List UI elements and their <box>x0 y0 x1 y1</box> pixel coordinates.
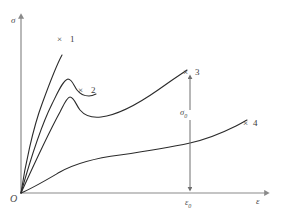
marker-1-label: 1 <box>70 34 75 44</box>
epsilon-zero-subscript: 0 <box>188 203 191 209</box>
marker-2: × 2 <box>78 80 96 96</box>
marker-3-label: 3 <box>195 67 200 77</box>
sigma-zero-subscript: 0 <box>184 113 187 119</box>
curve-4 <box>21 120 247 193</box>
marker-1-glyph: × <box>57 34 62 44</box>
stress-strain-figure: σ ε O × 1 × 2 × 3 × 4 σ0 ε0 <box>0 0 281 220</box>
marker-2-label: 2 <box>91 85 96 95</box>
marker-4-label: 4 <box>253 118 258 128</box>
marker-4-glyph: × <box>243 118 248 128</box>
sigma-zero-label: σ0 <box>180 108 187 119</box>
marker-4: × 4 <box>243 113 258 129</box>
marker-3: × 3 <box>183 62 200 78</box>
marker-3-glyph: × <box>183 67 188 77</box>
epsilon-zero-label: ε0 <box>185 198 191 209</box>
x-axis-label: ε <box>256 197 260 206</box>
plot-canvas <box>0 0 281 220</box>
marker-2-glyph: × <box>78 85 83 95</box>
origin-label: O <box>10 194 17 204</box>
curve-3 <box>21 70 187 193</box>
marker-1: × 1 <box>57 29 75 45</box>
y-axis-label: σ <box>11 16 15 25</box>
